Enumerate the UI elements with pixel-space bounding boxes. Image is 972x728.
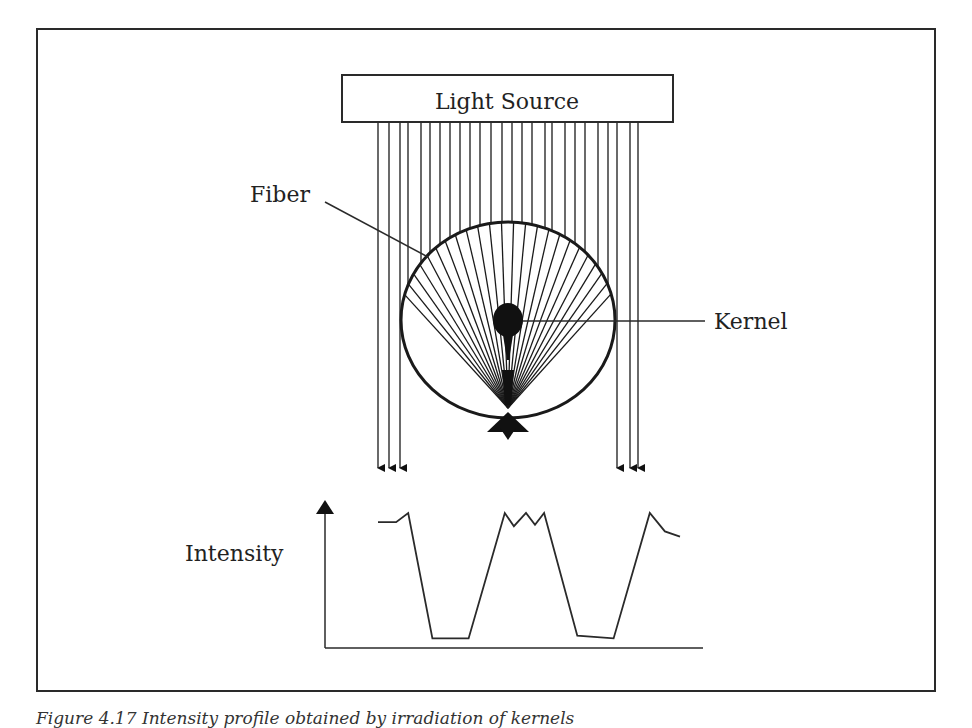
kernel-label: Kernel <box>714 309 788 334</box>
intensity-axes <box>316 500 703 648</box>
intensity-label: Intensity <box>185 541 284 566</box>
light-source-label: Light Source <box>435 89 579 114</box>
figure-caption: Figure 4.17 Intensity profile obtained b… <box>36 708 574 728</box>
intensity-profile <box>378 513 680 639</box>
refracted-ray <box>414 274 508 408</box>
refracted-ray <box>420 264 508 408</box>
y-axis-arrow-icon <box>316 500 334 514</box>
intensity-line <box>378 513 680 638</box>
fiber-label: Fiber <box>250 182 310 207</box>
refracted-ray <box>508 273 602 408</box>
kernel-blob <box>493 303 523 337</box>
focus-point-tip <box>500 428 516 440</box>
refracted-ray <box>508 264 596 408</box>
fiber-leader-line <box>325 202 428 257</box>
light-source: Light Source <box>342 75 673 122</box>
kernel-stem <box>503 335 513 360</box>
